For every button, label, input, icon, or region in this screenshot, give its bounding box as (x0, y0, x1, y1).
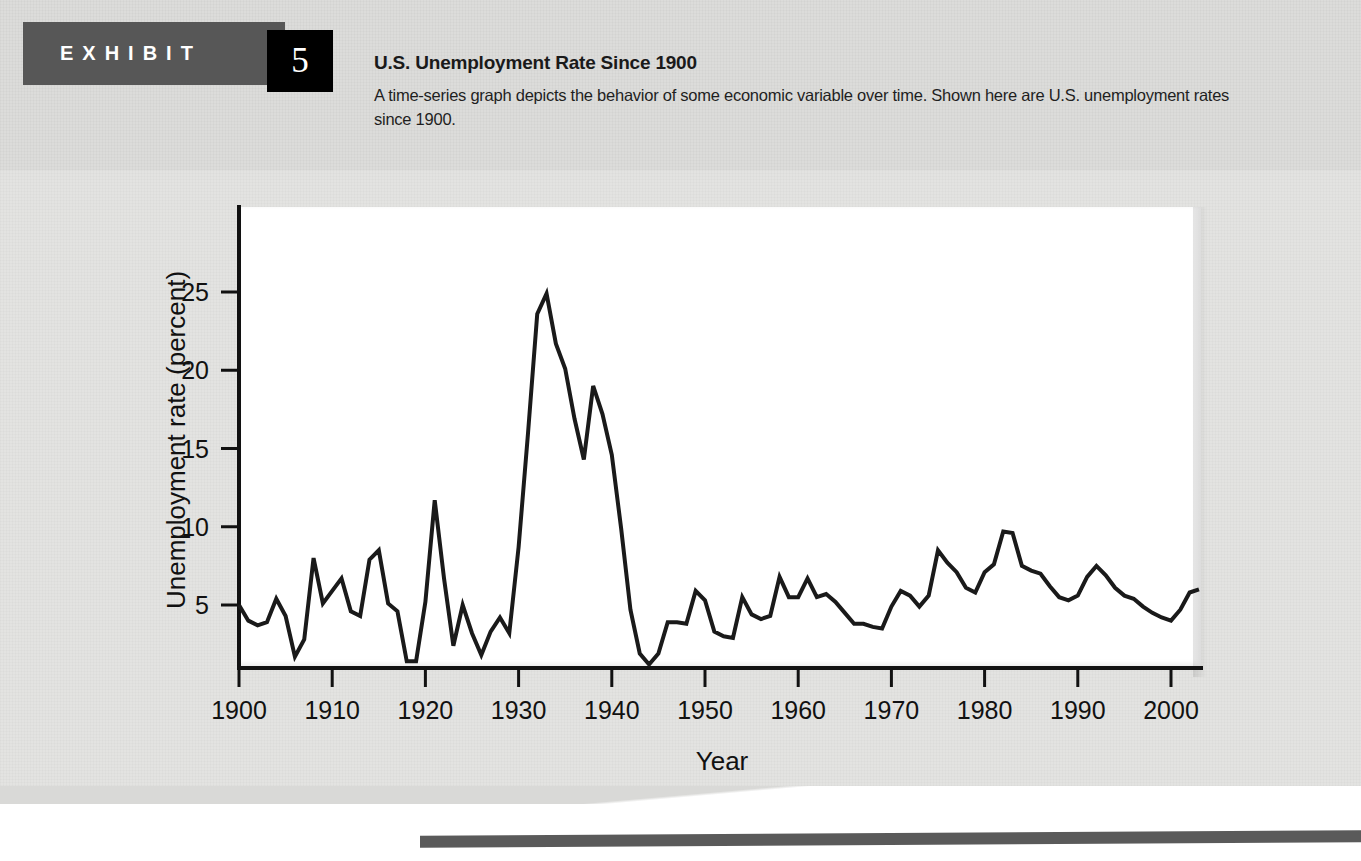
x-axis-tick-label: 1940 (584, 696, 640, 724)
x-axis-title: Year (696, 746, 749, 776)
x-axis-tick-label: 1900 (211, 696, 267, 724)
chart-svg: 510152025 190019101920193019401950196019… (0, 0, 1361, 861)
x-axis-tick-label: 1980 (957, 696, 1013, 724)
x-axis-tick-label: 1970 (864, 696, 920, 724)
x-axis-ticks: 1900191019201930194019501960197019801990… (211, 668, 1199, 724)
data-series-group (239, 294, 1199, 665)
x-axis-tick-label: 1920 (398, 696, 454, 724)
y-axis-tick-label: 5 (195, 591, 209, 619)
x-axis-tick-label: 1960 (770, 696, 826, 724)
y-axis-title: Unemployment rate (percent) (161, 271, 191, 609)
unemployment-rate-line (239, 294, 1199, 665)
x-axis-tick-label: 2000 (1143, 696, 1199, 724)
x-axis-tick-label: 1910 (304, 696, 360, 724)
exhibit-page: EXHIBIT 5 U.S. Unemployment Rate Since 1… (0, 0, 1361, 861)
x-axis-tick-label: 1990 (1050, 696, 1106, 724)
x-axis-tick-label: 1950 (677, 696, 733, 724)
x-axis-tick-label: 1930 (491, 696, 547, 724)
time-series-chart: 510152025 190019101920193019401950196019… (0, 0, 1361, 861)
